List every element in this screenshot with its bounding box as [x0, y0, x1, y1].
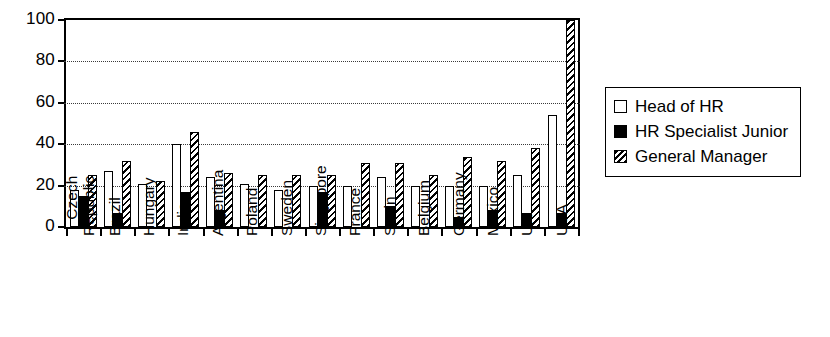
x-axis-label-cell: Argentina [202, 234, 236, 334]
x-axis-label: Belgium [416, 180, 432, 236]
x-axis-label-cell: CzechRepublic [64, 234, 98, 334]
x-axis-label-cell: Poland [236, 234, 270, 334]
y-axis: 020406080100 [0, 0, 64, 337]
legend-item-hr-specialist-junior: HR Specialist Junior [614, 119, 788, 144]
y-axis-tick-mark [58, 19, 64, 21]
y-axis-tick-label: 80 [36, 50, 55, 70]
bar [190, 132, 199, 227]
x-axis-label: Singapore [313, 165, 329, 236]
x-axis-label: Mexico [485, 187, 501, 236]
y-axis-tick-label: 40 [36, 133, 55, 153]
x-axis-label-cell: UK [511, 234, 545, 334]
legend-swatch-general-manager [614, 150, 627, 163]
y-axis-tick-label: 0 [45, 216, 55, 236]
x-axis-label-cell: Spain [374, 234, 408, 334]
legend-label-hr-specialist-junior: HR Specialist Junior [635, 122, 788, 141]
x-axis-label: India [175, 202, 191, 236]
bar-group [168, 20, 202, 227]
x-axis-label: Brazil [107, 197, 123, 236]
y-axis-tick-label: 100 [26, 9, 55, 29]
x-axis-label: Poland [244, 188, 260, 236]
y-axis-tick-mark [58, 102, 64, 104]
x-axis-label-cell: India [167, 234, 201, 334]
x-axis-label-cell: Brazil [98, 234, 132, 334]
x-axis-label-cell: Hungary [133, 234, 167, 334]
legend-label-general-manager: General Manager [635, 147, 767, 166]
x-axis-label: Spain [382, 196, 398, 236]
x-axis-label: Hungary [141, 177, 157, 236]
legend-swatch-head-of-hr [614, 100, 627, 113]
x-axis-label: CzechRepublic [63, 176, 97, 236]
x-axis-label: Argentina [210, 170, 226, 236]
y-axis-tick-label: 20 [36, 175, 55, 195]
legend: Head of HR HR Specialist Junior General … [605, 87, 801, 177]
y-axis-tick-label: 60 [36, 92, 55, 112]
x-axis-label: USA [554, 204, 570, 236]
legend-item-head-of-hr: Head of HR [614, 94, 788, 119]
x-axis-label-cell: France [339, 234, 373, 334]
x-axis-label-cell: Belgium [408, 234, 442, 334]
y-axis-tick-mark [58, 143, 64, 145]
bar-group [100, 20, 134, 227]
bar [122, 161, 131, 227]
bar-group [544, 20, 578, 227]
bar [156, 181, 165, 227]
legend-label-head-of-hr: Head of HR [635, 97, 724, 116]
x-axis-label: Sweden [279, 180, 295, 236]
x-axis-label: UK [519, 214, 535, 236]
x-axis-label: Germany [451, 172, 467, 236]
bar [566, 20, 575, 227]
x-axis-label-cell: Germany [442, 234, 476, 334]
x-axis-label-cell: Mexico [477, 234, 511, 334]
x-axis-label-cell: Sweden [270, 234, 304, 334]
x-axis-label: France [347, 188, 363, 236]
legend-swatch-hr-specialist-junior [614, 125, 627, 138]
x-axis-labels: CzechRepublicBrazilHungaryIndiaArgentina… [64, 234, 580, 334]
y-axis-tick-mark [58, 60, 64, 62]
bar-group [510, 20, 544, 227]
legend-item-general-manager: General Manager [614, 144, 788, 169]
x-axis-label-cell: USA [546, 234, 580, 334]
x-axis-label-cell: Singapore [305, 234, 339, 334]
chart-container: 020406080100 CzechRepublicBrazilHungaryI… [0, 0, 830, 337]
